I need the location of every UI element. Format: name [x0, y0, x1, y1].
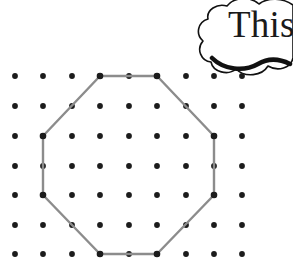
grid-dot — [183, 73, 189, 79]
grid-dot — [97, 163, 103, 169]
grid-dot — [12, 192, 18, 198]
grid-dot — [211, 222, 217, 228]
grid-dot — [183, 133, 189, 139]
grid-dot — [239, 133, 245, 139]
grid-dot — [69, 192, 75, 198]
octagon-vertex-dot — [97, 251, 104, 258]
grid-dot — [183, 192, 189, 198]
grid-dot — [211, 73, 217, 79]
grid-dot — [97, 192, 103, 198]
grid-dot — [211, 103, 217, 109]
figure-root: This — [0, 0, 293, 269]
grid-dot — [40, 73, 46, 79]
octagon-vertex-dot — [97, 73, 104, 80]
grid-dot — [12, 73, 18, 79]
grid-dot — [12, 251, 18, 257]
grid-dot — [97, 133, 103, 139]
grid-dot — [239, 103, 245, 109]
grid-dot — [12, 133, 18, 139]
octagon-vertex-dot — [40, 192, 47, 199]
grid-dot — [126, 133, 132, 139]
octagon-vertex-dot — [40, 133, 47, 140]
grid-dot — [239, 73, 245, 79]
grid-dot — [154, 192, 160, 198]
grid-dot — [126, 103, 132, 109]
thought-bubble: This — [198, 0, 293, 75]
grid-dot — [154, 133, 160, 139]
grid-dot — [69, 251, 75, 257]
grid-dot — [69, 163, 75, 169]
grid-dot — [126, 222, 132, 228]
grid-dot — [97, 222, 103, 228]
grid-dot — [239, 192, 245, 198]
grid-dot — [154, 222, 160, 228]
octagon-vertex-dot — [154, 73, 161, 80]
octagon-dot-grid-figure: This — [0, 0, 293, 269]
grid-dot — [97, 103, 103, 109]
grid-dot — [183, 163, 189, 169]
octagon-vertex-dot — [211, 192, 218, 199]
grid-dot — [12, 163, 18, 169]
grid-dot — [126, 163, 132, 169]
grid-dot — [40, 103, 46, 109]
grid-dot — [69, 133, 75, 139]
grid-dot — [154, 103, 160, 109]
grid-dot — [239, 222, 245, 228]
grid-dot — [12, 103, 18, 109]
octagon-vertex-dot — [211, 133, 218, 140]
grid-dot — [211, 251, 217, 257]
grid-dot — [40, 251, 46, 257]
grid-dot — [69, 73, 75, 79]
octagon-vertex-dot — [154, 251, 161, 258]
grid-dot — [12, 222, 18, 228]
grid-dot — [183, 251, 189, 257]
grid-dot — [126, 192, 132, 198]
thought-bubble-text: This — [228, 4, 293, 45]
grid-dot — [239, 163, 245, 169]
grid-dot — [239, 251, 245, 257]
grid-dot — [154, 163, 160, 169]
grid-dot — [40, 222, 46, 228]
